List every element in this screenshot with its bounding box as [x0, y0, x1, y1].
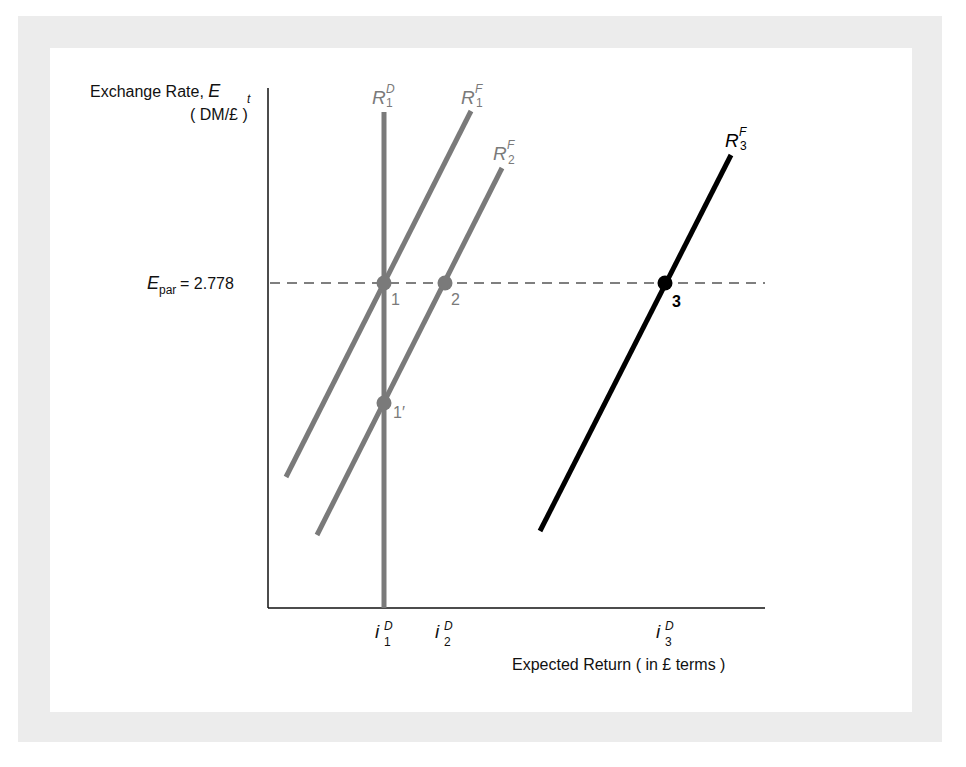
x-tick-i2: i D 2	[435, 619, 453, 649]
svg-text:par: par	[159, 283, 176, 297]
svg-text:2: 2	[444, 635, 451, 649]
svg-text:1: 1	[476, 96, 483, 110]
svg-text:D: D	[384, 619, 393, 633]
point-1-prime	[377, 396, 392, 411]
svg-text:Exchange Rate, E: Exchange Rate, E	[90, 81, 221, 101]
svg-text:R: R	[461, 87, 475, 108]
svg-text:i: i	[435, 621, 440, 642]
point-1	[377, 276, 392, 291]
svg-text:2: 2	[508, 153, 515, 167]
label-r2f: R F 2	[493, 138, 515, 167]
point-3	[658, 276, 673, 291]
x-tick-i1: i D 1	[375, 619, 393, 649]
svg-text:1: 1	[386, 96, 393, 110]
svg-text:i: i	[375, 621, 380, 642]
svg-text:3: 3	[740, 139, 747, 153]
svg-text:= 2.778: = 2.778	[180, 275, 234, 292]
svg-text:t: t	[247, 92, 251, 106]
svg-text:3: 3	[665, 635, 672, 649]
svg-text:R: R	[372, 87, 386, 108]
svg-text:F: F	[739, 125, 747, 139]
svg-text:D: D	[386, 82, 395, 96]
label-r3f: R F 3	[725, 125, 747, 153]
curve-r3f	[540, 155, 731, 531]
epar-label: E par = 2.778	[147, 273, 234, 297]
x-axis-label: Expected Return ( in £ terms )	[512, 656, 725, 673]
label-r1f: R F 1	[461, 82, 483, 110]
svg-text:( DM/£ ): ( DM/£ )	[190, 106, 248, 123]
point-1-prime-label: 1′	[393, 404, 405, 421]
svg-text:F: F	[507, 138, 515, 152]
chart: 1 2 1′ 3 R D 1 R F 1 R F 2 R F 3 Exchang…	[0, 0, 966, 767]
curve-r1f	[286, 111, 471, 477]
svg-text:D: D	[665, 619, 674, 633]
svg-text:R: R	[725, 130, 739, 151]
svg-text:R: R	[493, 143, 507, 164]
point-3-label: 3	[672, 293, 681, 310]
svg-text:F: F	[475, 82, 483, 96]
point-2-label: 2	[451, 291, 460, 308]
curve-r2f	[317, 168, 502, 535]
svg-text:i: i	[656, 621, 661, 642]
point-2	[438, 276, 453, 291]
y-axis-label: Exchange Rate, E t ( DM/£ )	[90, 81, 251, 123]
svg-text:D: D	[444, 619, 453, 633]
label-r1d: R D 1	[372, 82, 395, 110]
svg-text:1: 1	[384, 635, 391, 649]
x-tick-i3: i D 3	[656, 619, 674, 649]
point-1-label: 1	[391, 291, 400, 308]
